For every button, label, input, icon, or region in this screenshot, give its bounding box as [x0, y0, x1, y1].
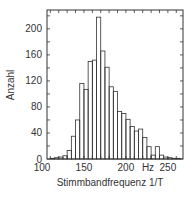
y-tick-label: 40 [31, 127, 43, 138]
histogram-bar [130, 126, 134, 159]
histogram-bar [92, 60, 96, 159]
histogram-bar [67, 151, 71, 159]
histogram-bar [84, 89, 88, 159]
histogram-bar [143, 138, 147, 159]
x-axis-title: Stimmbandfrequenz 1/T [57, 177, 164, 188]
histogram-bar [147, 147, 151, 159]
y-tick-label: 160 [25, 49, 42, 60]
histogram-bar [122, 113, 126, 159]
histogram-bar [71, 136, 75, 159]
histogram-bar [101, 51, 105, 159]
histogram-bars [50, 17, 180, 159]
y-tick-label: 120 [25, 75, 42, 86]
y-tick-label: 200 [25, 23, 42, 34]
y-tick-label: 80 [31, 101, 43, 112]
histogram-bar [105, 67, 109, 159]
histogram-bar [97, 17, 101, 159]
x-tick-label: 150 [76, 162, 93, 173]
histogram-bar [88, 61, 92, 159]
histogram-bar [155, 147, 159, 159]
histogram-bar [159, 155, 163, 159]
histogram-bar [118, 112, 122, 160]
histogram-bar [126, 119, 130, 159]
histogram-chart: 04080120160200 100150200250 Hz Stimmband… [0, 0, 194, 197]
x-tick-label: 100 [34, 162, 51, 173]
histogram-bar [76, 120, 80, 159]
x-unit-label: Hz [142, 162, 154, 173]
y-axis-ticks: 04080120160200 [25, 16, 183, 165]
histogram-bar [139, 129, 143, 159]
histogram-bar [113, 91, 117, 159]
y-axis-title: Anzahl [5, 70, 16, 101]
histogram-bar [151, 155, 155, 159]
histogram-bar [109, 87, 113, 159]
x-tick-label: 250 [160, 162, 177, 173]
plot-frame [47, 10, 183, 159]
x-tick-label: 200 [118, 162, 135, 173]
histogram-bar [80, 84, 84, 159]
histogram-bar [134, 131, 138, 159]
